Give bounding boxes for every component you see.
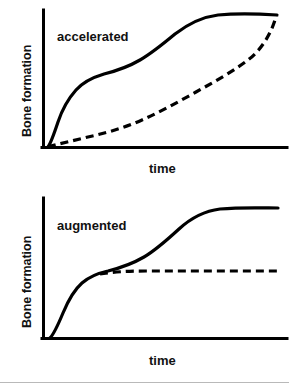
annotation-augmented: augmented [57, 218, 126, 233]
chart-panel-augmented: Bone formation augmented time [0, 190, 289, 386]
y-axis-title-augmented: Bone formation [20, 236, 34, 328]
bottom-separator-rule [0, 382, 289, 383]
accelerated-plot-svg [0, 0, 289, 190]
bone-formation-figure: Bone formation accelerated time Bone for… [0, 0, 289, 386]
curve-augmented-dashed [100, 271, 278, 274]
x-axis-title-accelerated: time [149, 161, 176, 176]
x-axis-title-augmented: time [149, 353, 176, 368]
annotation-accelerated: accelerated [57, 29, 129, 44]
y-axis-title-accelerated: Bone formation [20, 45, 34, 137]
chart-panel-accelerated: Bone formation accelerated time [0, 0, 289, 190]
augmented-plot-svg [0, 190, 289, 386]
